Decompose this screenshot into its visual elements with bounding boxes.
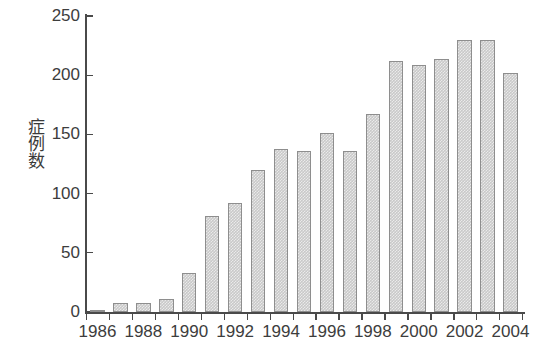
- bar: [412, 65, 426, 312]
- y-tick-label: 150: [20, 124, 80, 144]
- bar: [251, 170, 265, 312]
- bar: [389, 61, 403, 312]
- bar: [320, 133, 334, 312]
- x-axis-line: [85, 312, 525, 314]
- bar: [366, 114, 380, 312]
- x-tick-label: 2004: [481, 322, 535, 342]
- y-tick-label: 0: [20, 302, 80, 322]
- x-tick: [338, 313, 339, 320]
- x-tick: [361, 313, 362, 320]
- y-tick-label: 50: [20, 243, 80, 263]
- x-tick: [132, 313, 133, 320]
- bar: [503, 73, 517, 312]
- bar: [159, 299, 173, 312]
- x-tick: [522, 313, 523, 320]
- y-tick-label: 250: [20, 6, 80, 26]
- y-tick-label: 200: [20, 65, 80, 85]
- x-tick: [178, 313, 179, 320]
- bar: [113, 303, 127, 312]
- bar: [297, 151, 311, 312]
- bar: [90, 310, 104, 312]
- x-tick: [224, 313, 225, 320]
- x-tick: [315, 313, 316, 320]
- plot-area: [86, 16, 522, 312]
- x-tick: [476, 313, 477, 320]
- x-tick: [270, 313, 271, 320]
- x-tick: [86, 313, 87, 320]
- x-tick: [407, 313, 408, 320]
- bar: [205, 216, 219, 312]
- bar: [343, 151, 357, 312]
- x-tick: [293, 313, 294, 320]
- x-tick: [109, 313, 110, 320]
- bar: [228, 203, 242, 312]
- bar: [136, 303, 150, 312]
- bar: [274, 149, 288, 312]
- x-tick: [499, 313, 500, 320]
- bar: [457, 40, 471, 312]
- bar: [434, 59, 448, 312]
- bar: [182, 273, 196, 312]
- x-tick: [155, 313, 156, 320]
- y-tick-label: 100: [20, 184, 80, 204]
- bar: [480, 40, 494, 312]
- x-tick: [247, 313, 248, 320]
- x-tick: [384, 313, 385, 320]
- x-tick: [430, 313, 431, 320]
- x-tick: [201, 313, 202, 320]
- bar-chart: 症例数 050100150200250 19861988199019921994…: [0, 0, 535, 350]
- x-tick: [453, 313, 454, 320]
